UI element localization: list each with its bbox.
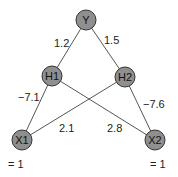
weight-y-h2: 1.5 [104,34,119,46]
node-x1-label: X1 [15,134,28,146]
neural-network-diagram: Y H1 H2 X1 X2 1.2 1.5 −7.1 −7.6 2.1 2.8 … [0,0,178,177]
input-x1-value: = 1 [8,158,24,170]
weight-h2-x1: 2.1 [59,122,74,134]
input-x2-value: = 1 [150,158,166,170]
weight-y-h1: 1.2 [54,37,69,49]
node-h2-label: H2 [118,71,132,83]
node-y-label: Y [82,14,90,26]
diagram-graphics: Y H1 H2 X1 X2 [0,0,178,177]
node-x2-label: X2 [148,134,161,146]
node-h1-label: H1 [45,70,59,82]
weight-h1-x2: 2.8 [107,122,122,134]
weight-h2-x2: −7.6 [143,98,165,110]
weight-h1-x1: −7.1 [18,91,40,103]
